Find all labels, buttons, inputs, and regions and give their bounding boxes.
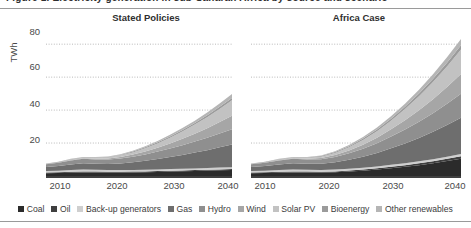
legend-item[interactable]: Hydro <box>199 204 230 214</box>
plot-area-stated-policies <box>46 31 232 176</box>
clipped-figure-header: Figure 1. Electricity generation in sub-… <box>0 0 471 8</box>
legend-item-label: Oil <box>60 204 71 214</box>
legend-item-label: Bioenergy <box>331 204 370 214</box>
top-divider <box>0 8 471 9</box>
legend-item-label: Gas <box>176 204 192 214</box>
panel-title-stated-policies: Stated Policies <box>60 12 232 23</box>
x-tick-left-2040: 2040 <box>211 180 245 191</box>
legend-item[interactable]: Coal <box>18 204 44 214</box>
legend-item-label: Wind <box>246 204 266 214</box>
legend-item-label: Solar PV <box>281 204 315 214</box>
legend-swatch-icon <box>199 206 205 212</box>
chart-legend: CoalOilBack-up generatorsGasHydroWindSol… <box>0 200 471 218</box>
legend-swatch-icon <box>322 206 328 212</box>
legend-item-label: Back-up generators <box>86 204 161 214</box>
legend-swatch-icon <box>168 206 174 212</box>
legend-swatch-icon <box>238 206 244 212</box>
x-tick-right-2020: 2020 <box>312 180 346 191</box>
x-axis-line-left <box>46 176 232 178</box>
x-tick-left-2020: 2020 <box>100 180 134 191</box>
legend-swatch-icon <box>51 206 57 212</box>
legend-item-label: Coal <box>27 204 45 214</box>
plot-area-africa-case <box>251 31 461 176</box>
legend-swatch-icon <box>18 206 24 212</box>
bottom-divider <box>0 221 471 222</box>
legend-item-label: Other renewables <box>385 204 453 214</box>
legend-swatch-icon <box>376 206 382 212</box>
legend-swatch-icon <box>273 206 279 212</box>
legend-item[interactable]: Wind <box>238 204 266 214</box>
legend-item[interactable]: Oil <box>51 204 70 214</box>
clipped-figure-header-text: Figure 1. Electricity generation in sub-… <box>6 0 388 3</box>
x-tick-left-2030: 2030 <box>157 180 191 191</box>
y-tick-80: 80 <box>16 26 40 37</box>
y-tick-20: 20 <box>16 134 40 145</box>
legend-item-label: Hydro <box>208 204 231 214</box>
x-tick-left-2010: 2010 <box>43 180 77 191</box>
legend-swatch-icon <box>77 206 83 212</box>
legend-item[interactable]: Solar PV <box>273 204 315 214</box>
x-tick-right-2030: 2030 <box>376 180 410 191</box>
x-axis-line-right <box>251 176 461 178</box>
y-tick-60: 60 <box>16 61 40 72</box>
area-chart-africa-case <box>251 31 461 176</box>
panel-title-africa-case: Africa Case <box>257 12 461 23</box>
figure-container: Figure 1. Electricity generation in sub-… <box>0 0 471 228</box>
legend-item[interactable]: Other renewables <box>376 204 452 214</box>
legend-item[interactable]: Back-up generators <box>77 204 161 214</box>
x-tick-right-2010: 2010 <box>248 180 282 191</box>
area-chart-stated-policies <box>46 31 232 176</box>
x-tick-right-2040: 2040 <box>438 180 471 191</box>
legend-item[interactable]: Bioenergy <box>322 204 369 214</box>
legend-item[interactable]: Gas <box>168 204 192 214</box>
y-tick-40: 40 <box>16 98 40 109</box>
